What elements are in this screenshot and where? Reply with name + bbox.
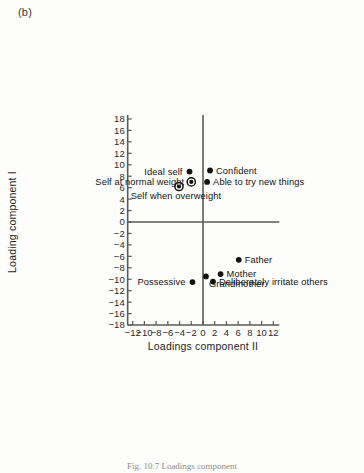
marker-dot: [187, 169, 193, 175]
data-point: [187, 169, 193, 175]
point-label: Self when overweight: [131, 191, 222, 201]
marker-dot: [236, 257, 242, 263]
y-tick-label: 12: [114, 148, 125, 159]
y-tick-label: 4: [119, 194, 124, 205]
figure-panel: (b) −18−16−14−12−10−8−6−4−20246810121416…: [0, 0, 364, 473]
figure-caption: Fig. 10.7 Loadings component: [0, 461, 364, 473]
y-tick-label: 14: [114, 136, 125, 147]
x-tick-label: 8: [247, 327, 252, 338]
y-tick-label: 10: [114, 159, 125, 170]
marker-dot: [204, 179, 210, 185]
data-point: [236, 257, 242, 263]
marker-dot: [190, 279, 196, 285]
data-point: [187, 178, 195, 186]
axes-layer: [128, 115, 280, 325]
x-tick-label: −8: [151, 327, 162, 338]
marker-ring-inner: [189, 180, 193, 184]
tick-labels-layer: −18−16−14−12−10−8−6−4−2024681012141618−1…: [109, 113, 279, 338]
point-label: Deliberately irritate others: [219, 277, 328, 287]
data-point: [204, 179, 210, 185]
x-axis-title: Loadings component II: [148, 340, 258, 352]
x-tick-label: 12: [268, 327, 279, 338]
x-tick-label: 10: [256, 327, 267, 338]
point-label: Self at normal weight: [95, 177, 184, 187]
y-tick-label: −18: [109, 319, 125, 330]
point-label: Possessive: [137, 277, 185, 287]
y-tick-label: −4: [114, 239, 125, 250]
y-tick-label: 0: [119, 216, 124, 227]
x-tick-label: 6: [236, 327, 241, 338]
data-point: [207, 168, 213, 174]
point-label: Ideal self: [144, 167, 183, 177]
y-tick-label: −2: [114, 228, 125, 239]
point-labels-layer: Ideal selfSelf at normal weightSelf when…: [95, 166, 328, 290]
marker-dot: [207, 168, 213, 174]
x-tick-label: −6: [162, 327, 173, 338]
y-tick-label: −14: [109, 297, 125, 308]
x-tick-label: 4: [224, 327, 229, 338]
x-tick-label: −2: [186, 327, 197, 338]
y-tick-label: −6: [114, 251, 125, 262]
point-label: Confident: [216, 166, 257, 176]
point-label: Father: [245, 255, 272, 265]
x-tick-label: 2: [212, 327, 217, 338]
x-tick-label: 0: [200, 327, 205, 338]
y-tick-label: 18: [114, 113, 125, 124]
point-label: Able to try new things: [213, 177, 304, 187]
y-tick-label: 2: [119, 205, 124, 216]
data-point: [190, 279, 196, 285]
y-tick-label: −16: [109, 308, 125, 319]
y-axis-title: Loading component I: [6, 171, 18, 273]
y-tick-label: −10: [109, 274, 125, 285]
y-tick-label: −12: [109, 285, 125, 296]
scatter-plot: −18−16−14−12−10−8−6−4−2024681012141618−1…: [0, 0, 364, 473]
y-tick-label: 16: [114, 125, 125, 136]
x-tick-label: −4: [174, 327, 185, 338]
y-tick-label: −8: [114, 262, 125, 273]
